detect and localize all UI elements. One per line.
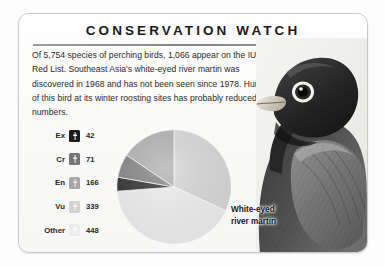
legend-item-en: En 166	[27, 171, 127, 195]
body-paragraph: Of 5,754 species of perching birds, 1,06…	[32, 48, 278, 119]
photo-caption: White-eyed river martin	[231, 204, 276, 227]
legend-item-ex: Ex 42	[27, 124, 127, 148]
bird-marker-icon	[73, 203, 77, 211]
legend-label: Ex	[27, 131, 69, 140]
bird-marker-icon	[73, 179, 77, 187]
legend-swatch-icon	[69, 130, 80, 142]
bird-marker-icon	[73, 226, 77, 234]
legend-swatch-icon	[69, 177, 80, 189]
pie-chart-svg	[115, 128, 233, 246]
legend-label: Other	[27, 226, 69, 235]
legend-label: En	[27, 178, 69, 187]
legend-label: Cr	[27, 155, 69, 164]
page-title: CONSERVATION WATCH	[19, 23, 367, 38]
caption-line-2: river martin	[231, 216, 276, 228]
legend-value: 166	[80, 178, 99, 187]
legend-label: Vu	[27, 202, 69, 211]
conservation-watch-card: CONSERVATION WATCH Of 5,754 species of p…	[18, 13, 368, 253]
legend-value: 448	[80, 226, 99, 235]
legend-item-other: Other 448	[27, 218, 127, 242]
legend-swatch-icon	[69, 153, 80, 165]
legend-value: 42	[80, 131, 94, 140]
legend-value: 339	[80, 202, 99, 211]
threat-category-pie-chart	[115, 128, 233, 246]
legend-value: 71	[80, 155, 94, 164]
bird-eye-glint	[299, 87, 303, 90]
chart-legend: Ex 42 Cr 71 En	[27, 124, 127, 242]
legend-item-cr: Cr 71	[27, 148, 127, 172]
legend-item-vu: Vu 339	[27, 195, 127, 219]
legend-swatch-icon	[69, 224, 80, 236]
bird-marker-icon	[73, 132, 77, 140]
caption-line-1: White-eyed	[231, 204, 276, 216]
pie-sheen-overlay	[117, 130, 231, 244]
screenshot-root: CONSERVATION WATCH Of 5,754 species of p…	[0, 0, 385, 267]
legend-swatch-icon	[69, 201, 80, 213]
bird-marker-icon	[73, 155, 77, 163]
